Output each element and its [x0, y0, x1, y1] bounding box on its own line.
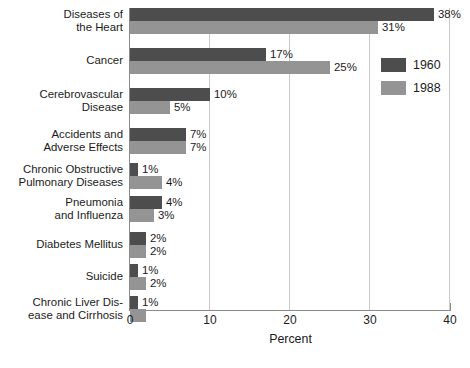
- bar-1960: [130, 48, 266, 61]
- legend-swatch-1960: [381, 58, 406, 72]
- plot-area: 38%31%17%25%10%5%7%7%1%4%4%3%2%2%1%2%1%: [130, 8, 450, 310]
- legend-item-1960: 1960: [381, 55, 441, 74]
- bar-group: 1%2%: [130, 264, 450, 290]
- category-label: Cancer: [0, 54, 123, 67]
- bar-value-label: 1%: [142, 264, 158, 277]
- bar-value-label: 4%: [166, 196, 182, 209]
- category-label: Suicide: [0, 270, 123, 283]
- bar-value-label: 2%: [150, 245, 166, 258]
- bar-value-label: 7%: [190, 128, 206, 141]
- bar-1988: [130, 141, 186, 154]
- x-axis-title: Percent: [130, 332, 451, 346]
- bar-1960: [130, 163, 138, 176]
- bar-1988: [130, 245, 146, 258]
- x-tick-10: 10: [190, 313, 230, 327]
- x-tick-30: 30: [350, 313, 390, 327]
- bar-value-label: 7%: [190, 141, 206, 154]
- x-axis-right-cap: [450, 303, 451, 311]
- bar-value-label: 1%: [142, 296, 158, 309]
- legend: 1960 1988: [381, 55, 441, 101]
- category-label: Diabetes Mellitus: [0, 238, 123, 251]
- bar-value-label: 10%: [214, 88, 237, 101]
- legend-swatch-1988: [381, 81, 406, 95]
- bar-1988: [130, 277, 146, 290]
- category-label: Accidents and Adverse Effects: [0, 128, 123, 154]
- legend-label-1988: 1988: [413, 81, 441, 95]
- bar-value-label: 2%: [150, 232, 166, 245]
- legend-item-1988: 1988: [381, 78, 441, 97]
- bar-group: 38%31%: [130, 8, 450, 34]
- bar-1988: [130, 101, 170, 114]
- bar-1960: [130, 196, 162, 209]
- bar-1960: [130, 88, 210, 101]
- bar-1960: [130, 264, 138, 277]
- bar-chart: Diseases of the HeartCancerCerebrovascul…: [0, 0, 470, 368]
- category-label: Cerebrovascular Disease: [0, 88, 123, 114]
- bar-1988: [130, 176, 162, 189]
- bar-1960: [130, 232, 146, 245]
- category-label: Pneumonia and Influenza: [0, 196, 123, 222]
- bar-1988: [130, 209, 154, 222]
- bar-value-label: 31%: [382, 21, 405, 34]
- category-axis-labels: Diseases of the HeartCancerCerebrovascul…: [0, 0, 127, 310]
- bar-value-label: 4%: [166, 176, 182, 189]
- bar-value-label: 17%: [270, 48, 293, 61]
- bar-group: 2%2%: [130, 232, 450, 258]
- bar-value-label: 1%: [142, 163, 158, 176]
- bar-value-label: 3%: [158, 209, 174, 222]
- x-tick-0: 0: [110, 313, 150, 327]
- category-label: Diseases of the Heart: [0, 8, 123, 34]
- legend-label-1960: 1960: [413, 58, 441, 72]
- x-tick-20: 20: [270, 313, 310, 327]
- bar-1960: [130, 128, 186, 141]
- bar-value-label: 25%: [334, 61, 357, 74]
- bar-value-label: 38%: [438, 8, 461, 21]
- category-label: Chronic Liver Dis- ease and Cirrhosis: [0, 296, 123, 322]
- bar-1988: [130, 61, 330, 74]
- bar-group: 4%3%: [130, 196, 450, 222]
- bar-group: 7%7%: [130, 128, 450, 154]
- category-label: Chronic Obstructive Pulmonary Diseases: [0, 163, 123, 189]
- bar-1960: [130, 8, 434, 21]
- x-tick-40: 40: [430, 313, 470, 327]
- bar-value-label: 2%: [150, 277, 166, 290]
- bar-group: 1%4%: [130, 163, 450, 189]
- bar-value-label: 5%: [174, 101, 190, 114]
- bar-1960: [130, 296, 138, 309]
- bar-1988: [130, 21, 378, 34]
